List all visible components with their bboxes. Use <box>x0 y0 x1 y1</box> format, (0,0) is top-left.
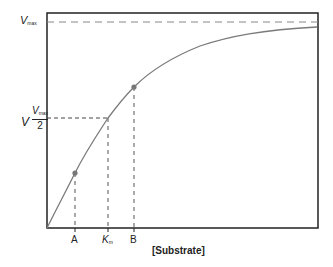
point-a <box>72 170 77 175</box>
half-vmax-denominator: 2 <box>32 121 48 131</box>
saturation-curve <box>47 27 317 228</box>
x-axis-label: [Substrate] <box>152 246 205 256</box>
vmax-label: Vmax <box>20 15 37 26</box>
tick-label-km: Km <box>102 235 113 245</box>
michaelis-menten-plot <box>0 0 333 267</box>
y-axis-label: V <box>21 116 29 128</box>
tick-label-a: A <box>71 235 78 245</box>
point-b <box>131 84 136 89</box>
half-vmax-label: Vmax 2 <box>32 106 48 131</box>
plot-frame <box>47 13 318 228</box>
half-vmax-numerator: Vmax <box>32 106 48 118</box>
tick-label-b: B <box>130 235 137 245</box>
